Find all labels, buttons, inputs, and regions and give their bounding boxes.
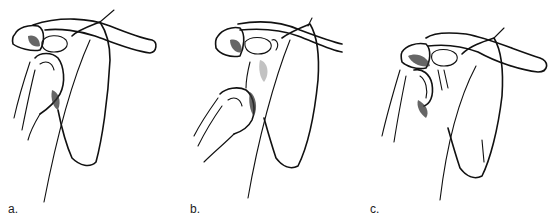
shoulder-illustration-a (0, 0, 190, 224)
panel-b: b. (190, 0, 370, 224)
shoulder-illustration-b (190, 0, 370, 224)
panel-label: a. (8, 202, 18, 216)
panel-label: c. (370, 202, 379, 216)
shoulder-illustration-c (370, 0, 560, 224)
panel-c: c. (370, 0, 560, 224)
panel-a: a. (0, 0, 190, 224)
panel-label: b. (190, 202, 200, 216)
